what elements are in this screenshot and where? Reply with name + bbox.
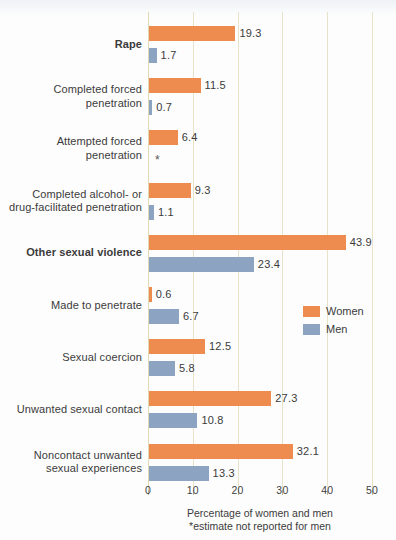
tick-label-40: 40 <box>312 484 342 496</box>
category-label-line-1: Rape <box>0 38 142 52</box>
category-label-line-2: drug-facilitated penetration <box>0 201 142 215</box>
category-label-line-1: Completed alcohol- or <box>0 188 142 202</box>
gridline-40 <box>327 12 328 490</box>
category-label: Attempted forcedpenetration <box>0 135 142 162</box>
bar-men <box>149 413 197 428</box>
category-label: Completed forcedpenetration <box>0 83 142 110</box>
caption-line-1: Percentage of women and men <box>148 507 372 520</box>
bar-men <box>149 257 254 272</box>
gridline-30 <box>282 12 283 490</box>
bar-men <box>149 361 175 376</box>
legend: Women Men <box>303 302 364 338</box>
bar-value-men: 0.7 <box>156 101 172 113</box>
bar-value-men: 23.4 <box>258 258 280 270</box>
bar-women <box>149 444 293 459</box>
bar-value-women: 12.5 <box>209 340 231 352</box>
category-label-line-1: Noncontact unwanted <box>0 449 142 463</box>
category-label-line-1: Completed forced <box>0 83 142 97</box>
category-label: Sexual coercion <box>0 351 142 365</box>
category-label-line-1: Made to penetrate <box>0 299 142 313</box>
bar-chart: RapeCompleted forcedpenetrationAttempted… <box>0 0 396 540</box>
category-label: Noncontact unwantedsexual experiences <box>0 449 142 476</box>
caption-line-2: *estimate not reported for men <box>148 520 372 533</box>
chart-caption: Percentage of women and men *estimate no… <box>148 507 372 532</box>
bar-women <box>149 287 152 302</box>
category-label-line-2: penetration <box>0 97 142 111</box>
category-label-line-1: Attempted forced <box>0 135 142 149</box>
bar-value-men: 13.3 <box>213 467 235 479</box>
legend-swatch-men-icon <box>303 324 320 335</box>
bar-value-men: 6.7 <box>183 310 199 322</box>
category-label-line-1: Other sexual violence <box>0 246 142 260</box>
bar-women <box>149 183 191 198</box>
legend-item-women: Women <box>303 302 364 320</box>
tick-label-30: 30 <box>267 484 297 496</box>
bar-women <box>149 391 271 406</box>
category-label-line-2: sexual experiences <box>0 462 142 476</box>
gridline-50 <box>372 12 373 490</box>
bar-men <box>149 466 209 481</box>
bar-value-women: 27.3 <box>275 392 297 404</box>
bar-women <box>149 78 201 93</box>
bar-men <box>149 205 154 220</box>
bar-women <box>149 26 235 41</box>
category-label: Made to penetrate <box>0 299 142 313</box>
bar-women <box>149 235 346 250</box>
gridline-20 <box>238 12 239 490</box>
bar-women <box>149 339 205 354</box>
bar-women <box>149 130 178 145</box>
category-label-line-2: penetration <box>0 149 142 163</box>
bar-value-women: 43.9 <box>350 236 372 248</box>
bar-value-men-not-reported: * <box>155 153 160 167</box>
tick-label-10: 10 <box>178 484 208 496</box>
bar-value-men: 1.1 <box>158 206 174 218</box>
bar-men <box>149 309 179 324</box>
bar-men <box>149 48 157 63</box>
category-label: Rape <box>0 38 142 52</box>
category-label: Unwanted sexual contact <box>0 403 142 417</box>
bar-men <box>149 100 152 115</box>
category-label-line-1: Unwanted sexual contact <box>0 403 142 417</box>
bar-value-women: 0.6 <box>156 288 172 300</box>
bar-value-women: 6.4 <box>182 131 198 143</box>
bar-value-men: 1.7 <box>161 49 177 61</box>
bar-value-women: 19.3 <box>239 27 261 39</box>
bar-value-men: 10.8 <box>201 414 223 426</box>
category-label: Other sexual violence <box>0 246 142 260</box>
legend-label-women: Women <box>326 305 364 317</box>
legend-swatch-women-icon <box>303 306 320 317</box>
bar-value-women: 11.5 <box>205 79 226 91</box>
legend-label-men: Men <box>326 323 347 335</box>
bar-value-women: 32.1 <box>297 445 319 457</box>
category-label-line-1: Sexual coercion <box>0 351 142 365</box>
legend-item-men: Men <box>303 320 364 338</box>
tick-label-0: 0 <box>133 484 163 496</box>
plot-area: 19.31.711.50.76.4*9.31.143.923.40.66.712… <box>148 12 372 490</box>
bar-value-men: 5.8 <box>179 362 195 374</box>
bar-value-women: 9.3 <box>195 184 211 196</box>
tick-label-20: 20 <box>223 484 253 496</box>
category-label: Completed alcohol- ordrug-facilitated pe… <box>0 188 142 215</box>
tick-label-50: 50 <box>357 484 387 496</box>
